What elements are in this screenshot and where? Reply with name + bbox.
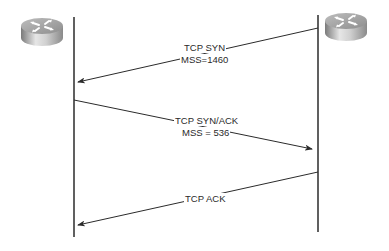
message-label-ack: TCP ACK [184, 193, 226, 204]
message-label-syn-mss: MSS=1460 [180, 54, 229, 65]
message-label-synack-mss: MSS = 536 [181, 127, 230, 138]
router-icon-right [325, 13, 367, 41]
router-icon-left [21, 18, 63, 46]
message-label-synack: TCP SYN/ACK [174, 115, 239, 126]
message-label-syn: TCP SYN [183, 42, 226, 53]
